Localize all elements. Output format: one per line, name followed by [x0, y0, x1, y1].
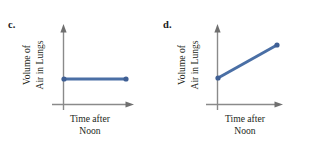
- lung-volume-figure: c.: [0, 0, 311, 156]
- panel-c-y-axis: [60, 24, 66, 110]
- panel-d: d.: [155, 0, 310, 156]
- panel-d-data-line: [215, 42, 279, 80]
- panel-d-plot: [155, 0, 310, 156]
- panel-c-data-line: [61, 76, 128, 81]
- panel-c: c.: [0, 0, 155, 156]
- panel-d-y-axis: [214, 24, 220, 110]
- panel-c-plot: [0, 0, 155, 156]
- panel-c-x-axis: [52, 101, 134, 107]
